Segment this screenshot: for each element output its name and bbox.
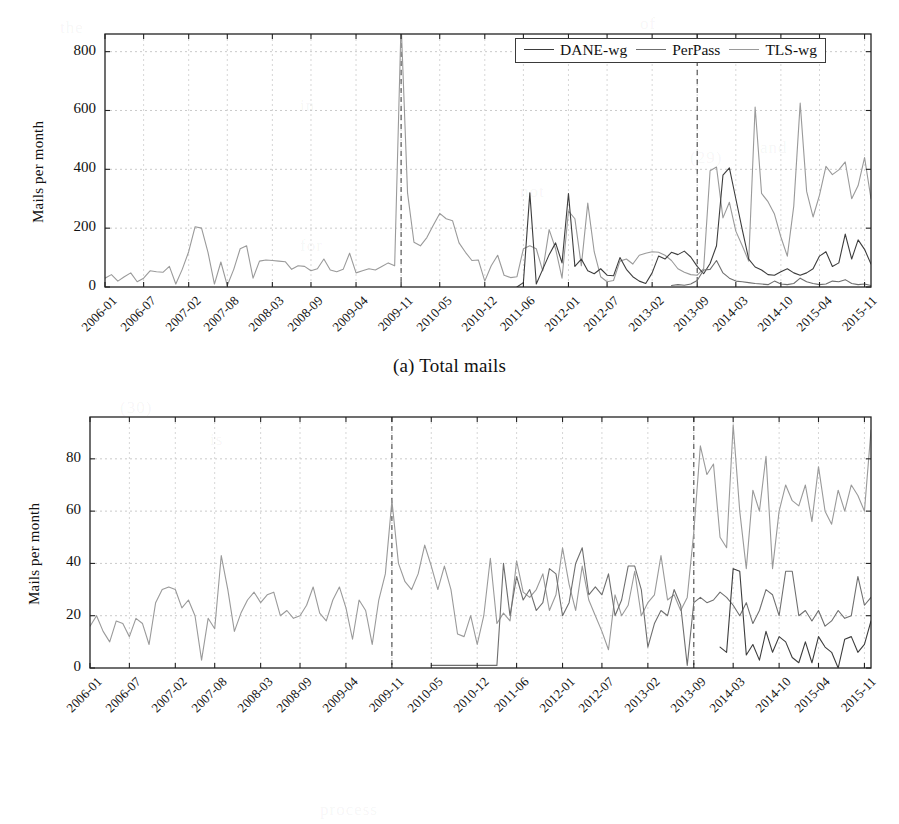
y-tick-label: 200 bbox=[74, 218, 97, 235]
plot-area-unique-senders bbox=[0, 390, 899, 824]
legend-label: PerPass bbox=[672, 42, 720, 58]
y-tick-label: 40 bbox=[66, 553, 81, 570]
chart-panel-unique-senders: Mails per month 020406080 2006-012006-07… bbox=[0, 390, 899, 824]
chart-legend[interactable]: DANE-wgPerPassTLS-wg bbox=[515, 38, 826, 63]
legend-item-perpass[interactable]: PerPass bbox=[636, 42, 720, 58]
panel-caption-a: (a) Total mails bbox=[0, 355, 899, 377]
y-tick-label: 0 bbox=[89, 277, 97, 294]
legend-line-icon bbox=[729, 49, 759, 50]
legend-item-tls-wg[interactable]: TLS-wg bbox=[729, 42, 817, 58]
y-tick-label: 80 bbox=[66, 449, 81, 466]
legend-label: DANE-wg bbox=[560, 42, 627, 58]
y-axis-label-a: Mails per month bbox=[30, 120, 47, 222]
legend-line-icon bbox=[636, 49, 666, 50]
y-tick-label: 600 bbox=[74, 100, 97, 117]
y-tick-label: 20 bbox=[66, 606, 81, 623]
y-tick-label: 800 bbox=[74, 42, 97, 59]
legend-item-dane-wg[interactable]: DANE-wg bbox=[524, 42, 627, 58]
legend-line-icon bbox=[524, 49, 554, 50]
y-tick-label: 0 bbox=[74, 658, 82, 675]
y-tick-label: 400 bbox=[74, 159, 97, 176]
y-axis-label-b: Mails per month bbox=[26, 502, 43, 604]
y-tick-label: 60 bbox=[66, 501, 81, 518]
legend-label: TLS-wg bbox=[765, 42, 817, 58]
figure-container: theofinand(29)notfor(30)isprocess Mails … bbox=[0, 0, 899, 824]
chart-panel-total-mails: Mails per month 0200400600800 2006-01200… bbox=[0, 0, 899, 390]
